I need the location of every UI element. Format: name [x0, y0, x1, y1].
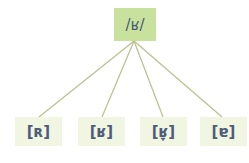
allophone-node-uvular-approximant: [ʁ̞]: [140, 117, 187, 146]
link-root-to-child-4: [134, 41, 222, 117]
allophone-label: [ɐ]: [212, 123, 236, 141]
root-phoneme-node: /ʁ/: [114, 8, 156, 41]
allophone-node-uvular-trill: [ʀ]: [15, 117, 62, 146]
allophone-label: [ʁ̞]: [152, 123, 175, 141]
allophone-label: [ʁ]: [90, 123, 113, 141]
allophone-label: [ʀ]: [27, 123, 50, 141]
allophone-node-vocalized: [ɐ]: [200, 117, 247, 146]
link-root-to-child-2: [102, 41, 134, 117]
link-root-to-child-3: [134, 41, 163, 117]
allophone-node-uvular-fricative: [ʁ]: [78, 117, 125, 146]
root-phoneme-label: /ʁ/: [125, 16, 144, 34]
link-root-to-child-1: [39, 41, 134, 117]
